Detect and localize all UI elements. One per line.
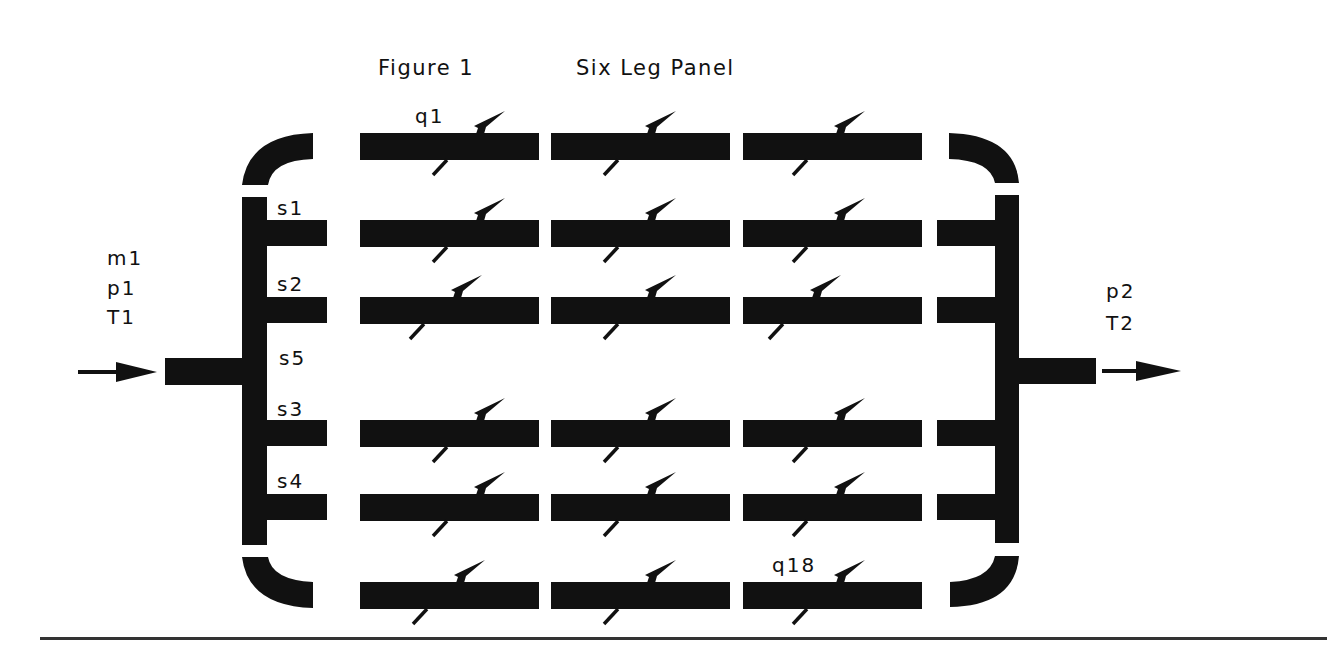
pipe-segment [360, 297, 539, 324]
diagram-canvas: Figure 1 Six Leg Panel m1 p1 T1 [0, 0, 1327, 672]
heat-flux-label-q18: q18 [772, 553, 816, 577]
outlet-temperature-label: T2 [1105, 311, 1135, 335]
stub-right-s4 [937, 494, 999, 520]
right-arrow-icon [1102, 361, 1181, 381]
pipe-legs [360, 111, 922, 624]
stub-left-s1 [262, 220, 327, 246]
stub-right-s3 [937, 420, 999, 446]
pipe-segment [360, 582, 539, 609]
pipe-segment [551, 133, 730, 160]
pipe-segment [551, 220, 730, 247]
branch-stubs [262, 220, 999, 520]
pipe-segment [743, 494, 922, 521]
pipe-segment [360, 220, 539, 247]
pipe-segment [551, 420, 730, 447]
figure-title: Six Leg Panel [576, 56, 735, 80]
right-arrow-icon [78, 362, 157, 382]
inlet-mass-flow-label: m1 [107, 246, 143, 270]
pipe-segment [743, 297, 922, 324]
inlet-pipe [165, 358, 243, 385]
pipe-segment [551, 582, 730, 609]
stream-label-s1: s1 [277, 196, 304, 220]
right-manifold [995, 195, 1019, 543]
left-manifold [242, 197, 267, 545]
figure-number: Figure 1 [378, 56, 474, 80]
pipe-segment [360, 494, 539, 521]
pipe-segment [743, 220, 922, 247]
outlet-header [949, 133, 1096, 607]
pipe-segment [743, 582, 922, 609]
pipe-segment [743, 133, 922, 160]
stream-label-s3: s3 [277, 397, 304, 421]
pipe-segment [743, 420, 922, 447]
top-right-elbow [949, 133, 1019, 183]
stub-left-s4 [262, 494, 327, 520]
outlet-pipe [1019, 358, 1096, 384]
bottom-divider [40, 637, 1327, 640]
pipe-segment [551, 494, 730, 521]
pipe-segment [360, 420, 539, 447]
bottom-right-elbow [950, 556, 1019, 607]
stream-label-s4: s4 [277, 469, 304, 493]
stub-left-s3 [262, 420, 327, 446]
inlet-pressure-label: p1 [107, 276, 136, 300]
heat-flux-label-q1: q1 [415, 104, 444, 128]
bottom-left-elbow [242, 557, 313, 608]
inlet-temperature-label: T1 [106, 305, 136, 329]
stub-left-s2 [262, 297, 327, 323]
stream-label-s5: s5 [279, 346, 306, 370]
outlet-pressure-label: p2 [1106, 279, 1135, 303]
pipe-segment [360, 133, 539, 160]
pipe-segment [551, 297, 730, 324]
stream-label-s2: s2 [277, 272, 304, 296]
stub-right-s2 [937, 297, 999, 323]
top-left-elbow [242, 133, 313, 185]
stub-right-s1 [937, 220, 999, 246]
